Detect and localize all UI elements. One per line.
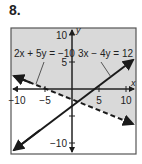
x-tick-10: 10 [120, 95, 132, 106]
y-tick-10: 10 [56, 30, 68, 41]
x-tick-neg10: −10 [9, 95, 26, 106]
x-tick-neg5: −5 [39, 95, 51, 106]
dashed-line-equation: 2x + 5y = −10 [14, 48, 75, 59]
solid-line-equation: 3x − 4y = 12 [78, 48, 133, 59]
solid-boundary-line-start [14, 130, 40, 150]
y-axis-label: y [75, 25, 81, 35]
y-tick-neg10: −10 [50, 138, 67, 149]
x-axis-label: x [130, 78, 136, 88]
shaded-region [11, 28, 136, 124]
inequality-graph: 10 5 −10 −10 −5 5 10 x y 2x + 5y = −10 3… [0, 0, 142, 164]
x-tick-5: 5 [96, 95, 102, 106]
